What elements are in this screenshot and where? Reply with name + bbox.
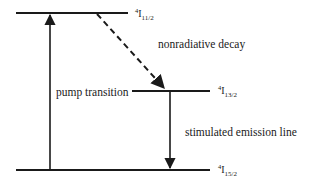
level-label-middle: 4I13/2 (218, 84, 238, 99)
nonradiative-decay-label: nonradiative decay (158, 38, 245, 51)
nonradiative-decay-arrow (97, 14, 164, 88)
pump-transition-label: pump transition (56, 86, 129, 99)
level-label-ground: 4I15/2 (218, 163, 238, 178)
energy-level-diagram: nonradiative decay pump transition stimu… (0, 0, 309, 184)
level-label-upper: 4I11/2 (135, 7, 154, 22)
stimulated-emission-label: stimulated emission line (185, 126, 297, 138)
